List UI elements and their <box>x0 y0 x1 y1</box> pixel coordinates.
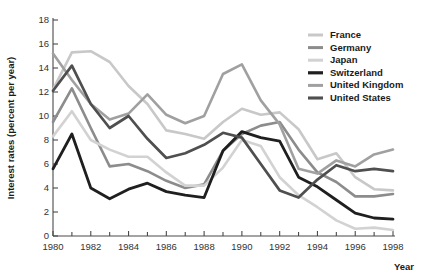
y-tick-label: 18 <box>38 14 49 25</box>
chart-legend: FranceGermanyJapanSwitzerlandUnited King… <box>308 29 403 103</box>
y-tick-label: 0 <box>44 230 49 241</box>
interest-rates-line-chart: 024681012141618 198019821984198619881990… <box>0 0 428 274</box>
x-tick-label: 1996 <box>345 241 366 252</box>
legend-label-united-states: United States <box>330 92 391 103</box>
x-tick-label: 1988 <box>194 241 215 252</box>
y-tick-label: 10 <box>38 110 49 121</box>
x-tick-label: 1994 <box>307 241 328 252</box>
legend-label-japan: Japan <box>330 54 358 65</box>
x-axis: 1980198219841986198819901992199419961998 <box>42 231 403 252</box>
y-tick-label: 16 <box>38 38 49 49</box>
legend-label-switzerland: Switzerland <box>330 67 383 78</box>
x-tick-label: 1990 <box>231 241 252 252</box>
chart-canvas: 024681012141618 198019821984198619881990… <box>0 0 428 274</box>
x-tick-label: 1980 <box>42 241 63 252</box>
y-tick-label: 12 <box>38 86 49 97</box>
series-line-japan <box>53 111 393 230</box>
y-axis-title: Interest rates (percent per year) <box>5 57 16 200</box>
x-tick-label: 1984 <box>118 241 139 252</box>
x-axis-title: Year <box>394 261 414 272</box>
y-tick-label: 8 <box>44 134 49 145</box>
series-line-germany <box>53 88 393 196</box>
legend-label-france: France <box>330 29 361 40</box>
x-tick-label: 1982 <box>80 241 101 252</box>
x-tick-label: 1998 <box>382 241 403 252</box>
series-line-switzerland <box>53 132 393 220</box>
y-tick-label: 14 <box>38 62 49 73</box>
legend-label-germany: Germany <box>330 42 372 53</box>
y-tick-label: 6 <box>44 158 49 169</box>
x-tick-label: 1986 <box>156 241 177 252</box>
y-axis: 024681012141618 <box>38 14 58 241</box>
y-tick-label: 2 <box>44 206 49 217</box>
x-tick-label: 1992 <box>269 241 290 252</box>
y-tick-label: 4 <box>44 182 49 193</box>
series-lines <box>53 51 393 230</box>
legend-label-united-kingdom: United Kingdom <box>330 79 403 90</box>
